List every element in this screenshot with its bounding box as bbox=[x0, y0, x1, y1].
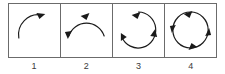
panel-label-3: 3 bbox=[113, 59, 165, 74]
panel-label-1: 1 bbox=[8, 59, 60, 74]
label-row: 1 2 3 4 bbox=[8, 59, 217, 74]
panel-label-2: 2 bbox=[60, 59, 112, 74]
panel-quarter-arc bbox=[9, 4, 61, 57]
three-quarter-arc-icon bbox=[113, 4, 164, 57]
quarter-arc-icon bbox=[9, 4, 60, 57]
half-arc-icon bbox=[61, 4, 112, 57]
panel-row bbox=[8, 3, 217, 58]
full-circle-icon bbox=[165, 4, 216, 57]
panel-label-4: 4 bbox=[165, 59, 217, 74]
panel-full-circle bbox=[165, 4, 216, 57]
panel-half-arc bbox=[61, 4, 113, 57]
panel-three-quarter-arc bbox=[113, 4, 165, 57]
arc-sequence-figure: 1 2 3 4 bbox=[0, 0, 225, 74]
